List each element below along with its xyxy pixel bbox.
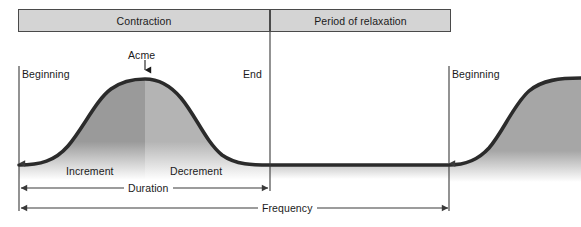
phase-bar-contraction-label: Contraction [117,15,172,27]
acme-label: Acme [128,49,155,61]
beginning-left-label: Beginning [22,68,70,80]
frequency-caption: Frequency [258,202,317,214]
increment-label: Increment [66,165,114,177]
phase-bar-contraction: Contraction [18,9,270,32]
relaxation-baseline-fill [270,165,460,179]
diagram-graphics [0,0,581,227]
end-label: End [243,68,262,80]
phase-bar-relaxation-label: Period of relaxation [314,15,406,27]
phase-bar-relaxation: Period of relaxation [270,9,451,32]
contraction-curve-figure: Contraction Period of relaxation Acme Be… [0,0,581,227]
next-contraction-fill-area [449,78,581,182]
decrement-label: Decrement [170,165,222,177]
beginning-right-label: Beginning [452,68,500,80]
duration-caption: Duration [124,182,173,194]
